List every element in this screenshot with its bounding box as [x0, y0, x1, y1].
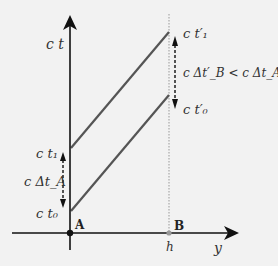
ct-axis-label: c t — [46, 37, 64, 51]
h-label: h — [166, 241, 174, 253]
ct1-prime-label: c t′₁ — [183, 27, 208, 40]
spacetime-diagram — [0, 0, 278, 266]
delta-ta-label: c Δt_A — [24, 175, 66, 188]
delta-tb-arrow-down-icon — [172, 99, 178, 109]
point-a-label: A — [75, 219, 84, 231]
ct0-prime-label: c t′₀ — [183, 103, 208, 116]
delta-tb-arrow-up-icon — [172, 36, 178, 46]
upper-light-ray — [71, 32, 169, 148]
point-b-dot — [166, 230, 171, 235]
ct1-label: c t₁ — [36, 147, 58, 160]
delta-ta-arrow-up-icon — [60, 152, 66, 161]
delta-ta-arrow-down-icon — [60, 199, 66, 208]
delta-relation-label: c Δt′_B < c Δt_A — [183, 67, 278, 79]
point-b-label: B — [174, 220, 184, 232]
y-axis-label: y — [214, 241, 222, 255]
ct0-label: c t₀ — [36, 207, 58, 220]
point-a-dot — [67, 230, 73, 236]
lower-light-ray — [71, 95, 169, 211]
